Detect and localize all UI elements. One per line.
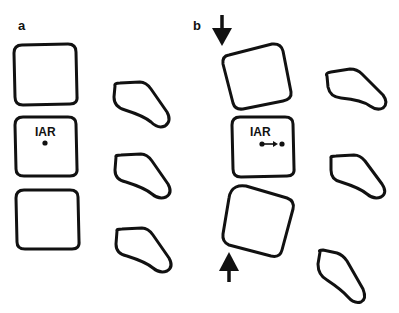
iar-label-a: IAR — [35, 126, 56, 138]
iar-point-a — [42, 140, 47, 145]
facet-b-middle — [331, 155, 385, 198]
arrow-down-icon — [212, 15, 232, 46]
diagram-canvas — [0, 0, 399, 313]
panel-b — [212, 15, 386, 302]
facet-a-top — [114, 82, 169, 127]
vertebral-body-a-bottom — [16, 190, 79, 249]
facet-b-bottom — [318, 250, 365, 302]
iar-displacement-arrow — [259, 141, 284, 147]
facet-b-top — [327, 69, 387, 109]
arrow-up-icon — [219, 252, 239, 282]
vertebral-body-b-bottom — [223, 186, 294, 257]
facet-a-middle — [115, 154, 170, 198]
iar-point-b-end — [279, 141, 284, 146]
panel-label-b: b — [193, 19, 201, 32]
panel-label-a: a — [18, 19, 25, 32]
vertebral-body-b-top — [223, 44, 291, 109]
iar-label-b: IAR — [250, 126, 271, 138]
facet-a-bottom — [116, 228, 171, 272]
panel-a — [14, 44, 171, 272]
vertebral-body-a-top — [14, 44, 77, 105]
